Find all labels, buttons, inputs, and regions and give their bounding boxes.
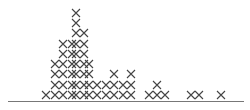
x-mark-icon	[194, 90, 204, 100]
x-mark-icon	[109, 69, 119, 79]
x-mark-icon	[126, 69, 136, 79]
x-mark-icon	[84, 59, 94, 69]
x-mark-icon	[126, 90, 136, 100]
x-mark-icon	[79, 39, 89, 49]
x-mark-icon	[160, 90, 170, 100]
x-mark-icon	[79, 28, 89, 38]
x-mark-icon	[71, 8, 81, 18]
x-mark-icon	[84, 69, 94, 79]
x-mark-icon	[126, 80, 136, 90]
x-axis-line	[8, 101, 244, 102]
x-mark-icon	[79, 49, 89, 59]
x-mark-icon	[152, 80, 162, 90]
dot-plot	[0, 0, 250, 110]
x-mark-icon	[216, 90, 226, 100]
x-mark-icon	[71, 18, 81, 28]
